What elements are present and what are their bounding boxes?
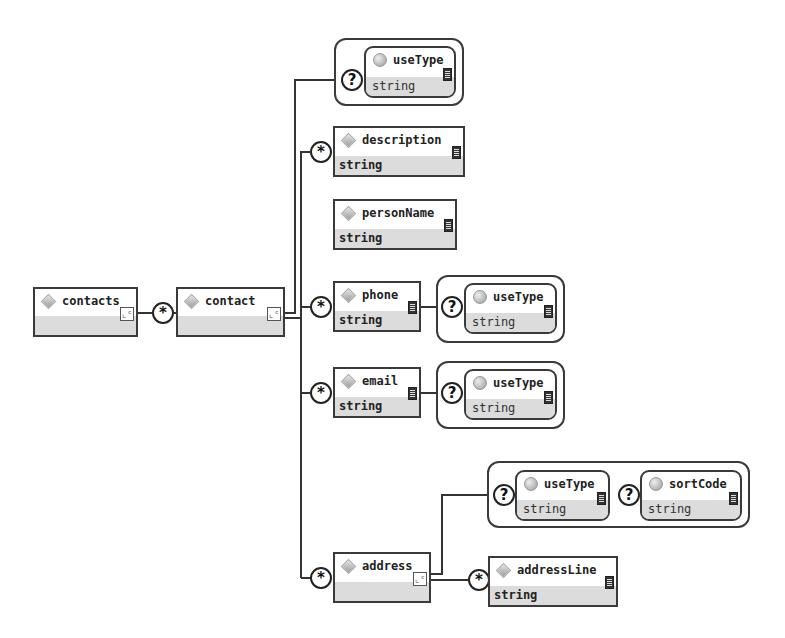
attribute-useType[interactable]: useType string <box>464 369 557 420</box>
doc-icon <box>408 387 417 400</box>
element-type: string <box>335 156 463 175</box>
doc-icon <box>544 391 553 404</box>
element-name: contact <box>205 294 256 308</box>
doc-icon <box>597 492 606 505</box>
element-type: string <box>335 229 455 248</box>
attribute-type: string <box>466 313 555 332</box>
occurrence-zero-or-more-icon: * <box>152 302 174 324</box>
doc-icon <box>444 219 453 232</box>
element-contact[interactable]: contact ⌞ᶜ <box>176 287 285 337</box>
doc-icon <box>605 576 614 589</box>
element-address[interactable]: address ⌞ᶜ <box>333 552 431 603</box>
circle-icon <box>524 477 538 491</box>
occurrence-optional-icon: ? <box>441 382 463 404</box>
element-type: string <box>335 311 419 330</box>
circle-icon <box>649 477 663 491</box>
occurrence-optional-icon: ? <box>341 69 363 91</box>
complex-type-icon: ⌞ᶜ <box>120 307 134 321</box>
attribute-useType[interactable]: useType string <box>515 470 610 521</box>
attribute-useType[interactable]: useType string <box>464 283 557 334</box>
diamond-icon <box>184 293 200 309</box>
attribute-sortCode[interactable]: sortCode string <box>640 470 742 521</box>
element-name: description <box>362 133 441 147</box>
occurrence-zero-or-more-icon: * <box>468 569 490 591</box>
complex-type-icon: ⌞ᶜ <box>267 307 281 321</box>
occurrence-zero-or-more-icon: * <box>310 296 332 318</box>
element-type: string <box>490 586 616 605</box>
circle-icon <box>473 376 487 390</box>
attribute-type: string <box>642 500 740 519</box>
diamond-icon <box>341 132 357 148</box>
diamond-icon <box>341 205 357 221</box>
element-name: personName <box>362 206 434 220</box>
occurrence-zero-or-more-icon: * <box>310 567 332 589</box>
element-name: phone <box>362 288 398 302</box>
attribute-name: useType <box>393 53 444 67</box>
occurrence-zero-or-more-icon: * <box>310 141 332 163</box>
occurrence-optional-icon: ? <box>493 484 515 506</box>
diamond-icon <box>341 287 357 303</box>
attribute-name: useType <box>544 477 595 491</box>
attribute-name: useType <box>493 376 544 390</box>
diamond-icon <box>341 373 357 389</box>
attribute-type: string <box>466 399 555 418</box>
doc-icon <box>452 146 461 159</box>
doc-icon <box>408 301 417 314</box>
occurrence-optional-icon: ? <box>618 484 640 506</box>
doc-icon <box>443 68 452 81</box>
element-description[interactable]: description string <box>333 126 465 177</box>
doc-icon <box>544 305 553 318</box>
element-email[interactable]: email string <box>333 367 421 418</box>
element-name: address <box>362 559 413 573</box>
circle-icon <box>473 290 487 304</box>
occurrence-zero-or-more-icon: * <box>310 382 332 404</box>
element-name: addressLine <box>517 563 596 577</box>
doc-icon <box>729 492 738 505</box>
diamond-icon <box>341 558 357 574</box>
element-name: email <box>362 374 398 388</box>
attribute-name: sortCode <box>669 477 727 491</box>
attribute-useType[interactable]: useType string <box>364 46 456 98</box>
element-contacts[interactable]: contacts ⌞ᶜ <box>33 287 138 337</box>
attribute-name: useType <box>493 290 544 304</box>
attribute-type: string <box>517 500 608 519</box>
attribute-type: string <box>366 77 454 96</box>
element-addressLine[interactable]: addressLine string <box>488 556 618 607</box>
element-phone[interactable]: phone string <box>333 281 421 332</box>
circle-icon <box>373 53 387 67</box>
occurrence-optional-icon: ? <box>441 296 463 318</box>
element-personName[interactable]: personName string <box>333 199 457 250</box>
complex-type-icon: ⌞ᶜ <box>413 572 427 586</box>
diamond-icon <box>41 293 57 309</box>
element-name: contacts <box>62 294 120 308</box>
diamond-icon <box>496 562 512 578</box>
element-type: string <box>335 397 419 416</box>
